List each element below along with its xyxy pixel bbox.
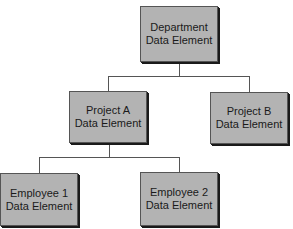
node-employee-1: Employee 1 Data Element <box>0 173 78 226</box>
node-label-line2: Data Element <box>146 34 213 47</box>
node-label-line1: Project B <box>227 105 272 118</box>
node-label-line1: Department <box>150 21 207 34</box>
node-department: Department Data Element <box>140 6 218 62</box>
node-employee-2: Employee 2 Data Element <box>140 172 218 226</box>
node-label-line2: Data Element <box>75 117 142 130</box>
node-label-line2: Data Element <box>216 118 283 131</box>
connector-level2-horizontal <box>39 157 180 158</box>
node-label-line1: Project A <box>86 104 130 117</box>
node-label-line1: Employee 2 <box>150 186 208 199</box>
connector-to-employee-1 <box>39 157 40 173</box>
node-label-line1: Employee 1 <box>10 187 68 200</box>
connector-to-project-b <box>249 76 250 92</box>
connector-level1-horizontal <box>108 76 250 77</box>
connector-to-employee-2 <box>179 157 180 172</box>
connector-project-a-down <box>109 143 110 158</box>
connector-to-project-a <box>108 76 109 91</box>
connector-department-down <box>179 63 180 77</box>
node-project-b: Project B Data Element <box>210 92 288 144</box>
node-project-a: Project A Data Element <box>69 91 147 143</box>
node-label-line2: Data Element <box>146 199 213 212</box>
node-label-line2: Data Element <box>6 200 73 213</box>
